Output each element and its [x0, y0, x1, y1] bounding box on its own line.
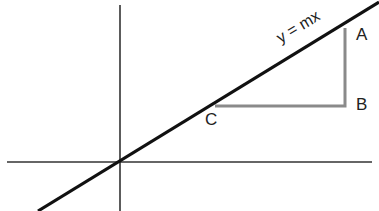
diagram-canvas	[0, 0, 379, 211]
point-label-a: A	[356, 26, 367, 43]
point-label-b: B	[356, 96, 367, 113]
slope-diagram: y = mx A B C	[0, 0, 379, 211]
point-label-c: C	[205, 111, 217, 128]
